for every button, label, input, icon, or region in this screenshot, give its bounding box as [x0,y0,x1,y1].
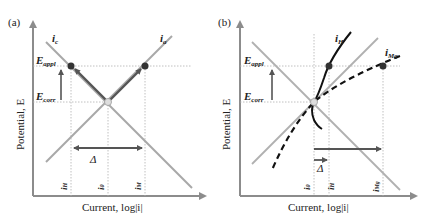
y-axis-title: Potential, E [14,98,26,150]
anodic-point [142,63,149,70]
x-axis-title: Current, log|i| [288,201,349,213]
img-curve-label: iMg [385,46,398,60]
ih-tick-label: iH [59,182,69,190]
ih-curve-label: iH [335,32,344,46]
corrosion-point [105,99,112,106]
ic-label: ic [52,32,58,46]
img-tick-label: iMg [371,181,381,192]
im-tick-label: iM [133,181,143,190]
ih-point [326,63,333,70]
diagram-canvas: (a) ic ia Eappl Ecorr Δ iH i0 iM Po [0,0,425,214]
e-corr-label: Ecorr [35,90,56,104]
ih-curve [312,32,351,129]
cathodic-line [46,42,192,188]
delta-label: Δ [316,162,323,174]
e-appl-label: Eappl [35,54,56,68]
panel-a: (a) ic ia Eappl Ecorr Δ iH i0 iM Po [8,16,205,213]
y-axis-title: Potential, E [220,98,232,150]
panel-b: (b) iH iMg Eappl Ecorr Δ i0 iH iMg [218,16,416,213]
e-corr-label: Ecorr [243,90,264,104]
panel-b-label: (b) [218,16,231,29]
e-appl-label: Eappl [243,54,264,68]
ih-tick-label: iH [326,182,336,190]
ia-label: ia [160,32,167,46]
i0-tick-label: i0 [96,184,106,190]
i0-tick-label: i0 [302,184,312,190]
img-curve [272,56,400,170]
cathodic-point [68,63,75,70]
anodic-shift-arrow [110,69,141,100]
delta-label: Δ [89,153,96,165]
panel-a-label: (a) [8,16,21,29]
cathodic-shift-arrow [75,69,106,100]
x-axis-title: Current, log|i| [82,201,143,213]
corrosion-point [311,99,318,106]
img-point [380,63,387,70]
